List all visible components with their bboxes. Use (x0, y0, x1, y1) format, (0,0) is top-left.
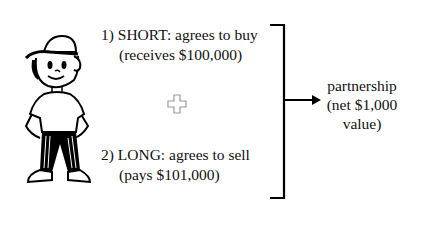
result-line3: value) (312, 114, 412, 133)
right-bracket (270, 25, 284, 198)
result-line2: (net $1,000 (312, 95, 412, 114)
result-line1: partnership (312, 76, 412, 95)
partnership-result: partnership (net $1,000 value) (312, 76, 412, 133)
